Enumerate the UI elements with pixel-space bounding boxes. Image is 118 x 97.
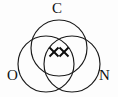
x-mark-left-icon (50, 48, 59, 57)
venn-diagram-figure: C O N (0, 0, 118, 97)
circle-set-o (18, 36, 74, 92)
set-label-c: C (52, 1, 62, 16)
set-label-n: N (99, 68, 110, 83)
set-label-o: O (7, 68, 18, 83)
circle-set-n (44, 36, 100, 92)
x-mark-right-icon (60, 48, 69, 57)
